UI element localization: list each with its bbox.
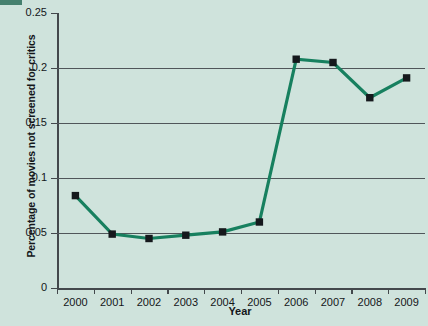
series-line [75,59,406,238]
line-chart: Percentage of movies not screened for cr… [0,0,428,326]
series-layer [0,0,428,326]
data-point-marker [403,74,410,81]
data-point-marker [182,232,189,239]
data-point-marker [109,230,116,237]
data-point-marker [219,228,226,235]
data-point-marker [72,192,79,199]
series-markers [72,56,411,243]
data-point-marker [329,59,336,66]
x-axis-title: Year [55,305,425,317]
data-point-marker [256,218,263,225]
data-point-marker [366,94,373,101]
data-point-marker [145,235,152,242]
data-point-marker [293,56,300,63]
